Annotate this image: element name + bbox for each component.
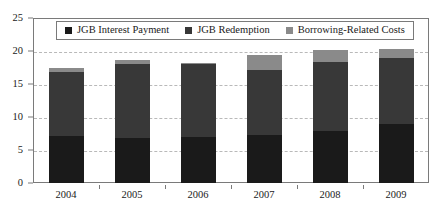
x-tick-label: 2008: [320, 190, 341, 201]
y-tick-label: 5: [18, 145, 23, 156]
x-tick-label: 2006: [188, 190, 209, 201]
y-tick-label: 0: [18, 178, 23, 189]
legend-swatch-icon: [65, 27, 72, 34]
plot-area: [33, 18, 429, 183]
legend-entry: JGB Redemption: [185, 25, 270, 36]
x-tick-label: 2007: [254, 190, 275, 201]
y-tick-label: 15: [13, 79, 24, 90]
legend-label: JGB Interest Payment: [77, 25, 169, 36]
y-tick-label: 10: [13, 112, 24, 123]
x-tick-mark: [297, 185, 298, 189]
x-tick-label: 2005: [122, 190, 143, 201]
gridline: [34, 52, 428, 53]
gridline: [34, 151, 428, 152]
gridline: [34, 85, 428, 86]
x-tick-label: 2004: [56, 190, 77, 201]
legend-entry: JGB Interest Payment: [65, 25, 169, 36]
y-tick-label: 20: [13, 46, 24, 57]
chart-legend: JGB Interest PaymentJGB RedemptionBorrow…: [56, 21, 414, 40]
legend-label: JGB Redemption: [197, 25, 270, 36]
y-tick-label: 25: [13, 13, 24, 24]
legend-label: Borrowing-Related Costs: [298, 25, 405, 36]
x-tick-mark: [99, 185, 100, 189]
y-axis: 0510152025: [0, 18, 29, 183]
legend-swatch-icon: [286, 27, 293, 34]
x-tick-mark: [165, 185, 166, 189]
gridline: [34, 118, 428, 119]
x-tick-label: 2009: [386, 190, 407, 201]
x-axis: 200420052006200720082009: [33, 185, 429, 205]
legend-entry: Borrowing-Related Costs: [286, 25, 405, 36]
x-tick-mark: [363, 185, 364, 189]
x-tick-mark: [231, 185, 232, 189]
stacked-bar-chart: 0510152025 200420052006200720082009 JGB …: [0, 0, 439, 211]
legend-swatch-icon: [185, 27, 192, 34]
